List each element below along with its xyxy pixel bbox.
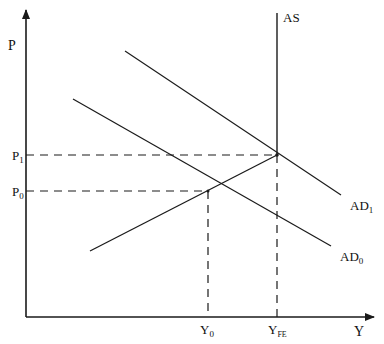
as-label: AS (283, 10, 300, 25)
yfe-label: YFE (268, 322, 287, 339)
ad0-label: AD0 (340, 249, 364, 266)
ad0-label-main: AD (340, 249, 359, 264)
p1-label-main: P (12, 148, 19, 163)
yfe-label-sub: FE (277, 330, 286, 339)
ad1-label-main: AD (350, 198, 369, 213)
ad0-label-sub: 0 (359, 256, 364, 266)
p1-label-sub: 1 (19, 155, 24, 165)
p0-label-sub: 0 (19, 191, 24, 201)
equilibrium-point-1 (275, 153, 279, 157)
p1-label: P1 (12, 148, 24, 165)
ad1-curve (125, 51, 341, 195)
ad0-curve (73, 99, 331, 246)
ad1-label-sub: 1 (369, 205, 374, 215)
x-axis-label: Y (354, 324, 364, 339)
y0-label-sub: 0 (209, 329, 214, 339)
ad-as-diagram: P Y AS AD1 AD0 P1 P0 Y0 YFE (0, 0, 384, 344)
y0-label: Y0 (200, 322, 214, 339)
p0-label: P0 (12, 184, 24, 201)
y-axis-label: P (8, 38, 16, 53)
ad1-label: AD1 (350, 198, 373, 215)
as-sloping-segment (90, 155, 277, 251)
p0-label-main: P (12, 184, 19, 199)
equilibrium-point-0 (207, 190, 210, 193)
